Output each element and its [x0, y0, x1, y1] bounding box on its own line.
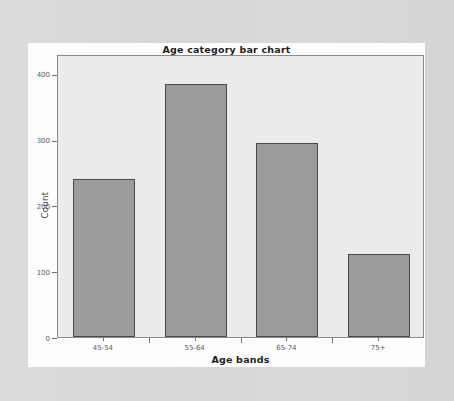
plot-area	[57, 55, 424, 338]
bar-55-64	[165, 84, 227, 337]
x-tick-center	[378, 338, 379, 341]
bar-series	[58, 56, 423, 337]
x-category-label: 55-64	[184, 344, 204, 352]
y-tick-label: 100	[37, 269, 52, 277]
bar-chart: Age category bar chart Count 01002003004…	[28, 43, 425, 367]
bar-45-54	[73, 179, 135, 337]
x-axis-label: Age bands	[57, 354, 424, 365]
y-tick: 0	[52, 338, 57, 339]
bar-75+	[348, 254, 410, 337]
x-tick-center	[195, 338, 196, 341]
chart-title: Age category bar chart	[28, 44, 425, 55]
x-tick-center	[286, 338, 287, 341]
x-category-label: 45-54	[93, 344, 113, 352]
x-category-label: 65-74	[276, 344, 296, 352]
x-tick-center	[103, 338, 104, 341]
y-tick-label: 0	[46, 335, 52, 343]
y-tick-label: 400	[37, 71, 52, 79]
x-tick	[332, 338, 333, 343]
chart-card: Age category bar chart Count 01002003004…	[28, 43, 425, 367]
x-category-label: 75+	[371, 344, 386, 352]
y-tick-label: 300	[37, 137, 52, 145]
x-tick	[149, 338, 150, 343]
bar-65-74	[256, 143, 318, 337]
y-tick-label: 200	[37, 203, 52, 211]
x-tick	[241, 338, 242, 343]
